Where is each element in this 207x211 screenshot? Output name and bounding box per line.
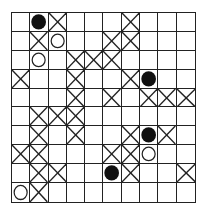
board-cell-r6-c2[interactable] xyxy=(49,126,67,145)
board-cell-r7-c2[interactable] xyxy=(49,145,67,164)
board-cell-r1-c4[interactable] xyxy=(85,32,103,51)
board-cell-r1-c8[interactable] xyxy=(158,32,176,51)
board-cell-r7-c9[interactable] xyxy=(177,145,195,164)
board-cell-r7-c8[interactable] xyxy=(158,145,176,164)
board-cell-r0-c6[interactable] xyxy=(122,13,140,32)
board-cell-r6-c1[interactable] xyxy=(30,126,48,145)
board-cell-r1-c5[interactable] xyxy=(103,32,121,51)
board-cell-r3-c3[interactable] xyxy=(67,70,85,89)
board-cell-r6-c3[interactable] xyxy=(67,126,85,145)
board-cell-r8-c3[interactable] xyxy=(67,164,85,183)
board-cell-r5-c6[interactable] xyxy=(122,107,140,126)
board-cell-r6-c0[interactable] xyxy=(12,126,30,145)
board-cell-r4-c8[interactable] xyxy=(158,89,176,108)
board-cell-r3-c9[interactable] xyxy=(177,70,195,89)
board-cell-r9-c5[interactable] xyxy=(103,183,121,202)
board-cell-r0-c8[interactable] xyxy=(158,13,176,32)
board-cell-r1-c0[interactable] xyxy=(12,32,30,51)
board-cell-r2-c4[interactable] xyxy=(85,51,103,70)
board-cell-r7-c4[interactable] xyxy=(85,145,103,164)
board-cell-r6-c7[interactable] xyxy=(140,126,158,145)
board-cell-r5-c8[interactable] xyxy=(158,107,176,126)
board-cell-r9-c4[interactable] xyxy=(85,183,103,202)
board-cell-r0-c5[interactable] xyxy=(103,13,121,32)
board-cell-r1-c2[interactable] xyxy=(49,32,67,51)
board-cell-r2-c8[interactable] xyxy=(158,51,176,70)
board-cell-r2-c1[interactable] xyxy=(30,51,48,70)
board-cell-r6-c5[interactable] xyxy=(103,126,121,145)
board-cell-r8-c5[interactable] xyxy=(103,164,121,183)
board-cell-r6-c6[interactable] xyxy=(122,126,140,145)
board-cell-r0-c4[interactable] xyxy=(85,13,103,32)
board-cell-r5-c4[interactable] xyxy=(85,107,103,126)
board-cell-r2-c2[interactable] xyxy=(49,51,67,70)
board-cell-r3-c1[interactable] xyxy=(30,70,48,89)
board-cell-r9-c7[interactable] xyxy=(140,183,158,202)
board-cell-r3-c7[interactable] xyxy=(140,70,158,89)
board-cell-r3-c6[interactable] xyxy=(122,70,140,89)
board-cell-r8-c7[interactable] xyxy=(140,164,158,183)
board-cell-r8-c0[interactable] xyxy=(12,164,30,183)
board-cell-r3-c4[interactable] xyxy=(85,70,103,89)
board-cell-r5-c0[interactable] xyxy=(12,107,30,126)
board-cell-r1-c9[interactable] xyxy=(177,32,195,51)
board-cell-r5-c1[interactable] xyxy=(30,107,48,126)
board-cell-r8-c2[interactable] xyxy=(49,164,67,183)
board-cell-r3-c8[interactable] xyxy=(158,70,176,89)
board-cell-r8-c6[interactable] xyxy=(122,164,140,183)
board-cell-r5-c7[interactable] xyxy=(140,107,158,126)
board-cell-r9-c6[interactable] xyxy=(122,183,140,202)
board-cell-r1-c3[interactable] xyxy=(67,32,85,51)
board-cell-r7-c1[interactable] xyxy=(30,145,48,164)
board-cell-r9-c1[interactable] xyxy=(30,183,48,202)
board-cell-r4-c9[interactable] xyxy=(177,89,195,108)
board-cell-r0-c2[interactable] xyxy=(49,13,67,32)
board-cell-r7-c7[interactable] xyxy=(140,145,158,164)
board-cell-r4-c7[interactable] xyxy=(140,89,158,108)
board-cell-r9-c2[interactable] xyxy=(49,183,67,202)
board-cell-r0-c3[interactable] xyxy=(67,13,85,32)
board-cell-r2-c3[interactable] xyxy=(67,51,85,70)
board-cell-r4-c4[interactable] xyxy=(85,89,103,108)
board-cell-r1-c1[interactable] xyxy=(30,32,48,51)
board-cell-r4-c6[interactable] xyxy=(122,89,140,108)
board-cell-r4-c2[interactable] xyxy=(49,89,67,108)
board-cell-r4-c5[interactable] xyxy=(103,89,121,108)
board-cell-r5-c5[interactable] xyxy=(103,107,121,126)
board-cell-r1-c7[interactable] xyxy=(140,32,158,51)
board-cell-r6-c4[interactable] xyxy=(85,126,103,145)
board-cell-r7-c3[interactable] xyxy=(67,145,85,164)
board-cell-r9-c8[interactable] xyxy=(158,183,176,202)
board-cell-r2-c7[interactable] xyxy=(140,51,158,70)
board-cell-r2-c0[interactable] xyxy=(12,51,30,70)
board-cell-r0-c9[interactable] xyxy=(177,13,195,32)
board-cell-r8-c4[interactable] xyxy=(85,164,103,183)
board-cell-r2-c6[interactable] xyxy=(122,51,140,70)
board-cell-r5-c9[interactable] xyxy=(177,107,195,126)
board-cell-r2-c9[interactable] xyxy=(177,51,195,70)
board-cell-r0-c1[interactable] xyxy=(30,13,48,32)
board-cell-r6-c9[interactable] xyxy=(177,126,195,145)
board-cell-r8-c1[interactable] xyxy=(30,164,48,183)
board-cell-r7-c6[interactable] xyxy=(122,145,140,164)
board-cell-r5-c3[interactable] xyxy=(67,107,85,126)
board-cell-r7-c0[interactable] xyxy=(12,145,30,164)
board-cell-r4-c1[interactable] xyxy=(30,89,48,108)
board-cell-r8-c9[interactable] xyxy=(177,164,195,183)
board-cell-r0-c7[interactable] xyxy=(140,13,158,32)
board-cell-r2-c5[interactable] xyxy=(103,51,121,70)
board-cell-r9-c9[interactable] xyxy=(177,183,195,202)
board-cell-r0-c0[interactable] xyxy=(12,13,30,32)
board-cell-r4-c0[interactable] xyxy=(12,89,30,108)
board-cell-r3-c2[interactable] xyxy=(49,70,67,89)
board-cell-r3-c5[interactable] xyxy=(103,70,121,89)
board-cell-r1-c6[interactable] xyxy=(122,32,140,51)
board-cell-r9-c3[interactable] xyxy=(67,183,85,202)
board-cell-r8-c8[interactable] xyxy=(158,164,176,183)
board-cell-r3-c0[interactable] xyxy=(12,70,30,89)
board-cell-r4-c3[interactable] xyxy=(67,89,85,108)
board-cell-r7-c5[interactable] xyxy=(103,145,121,164)
board-cell-r9-c0[interactable] xyxy=(12,183,30,202)
board-cell-r6-c8[interactable] xyxy=(158,126,176,145)
board-cell-r5-c2[interactable] xyxy=(49,107,67,126)
